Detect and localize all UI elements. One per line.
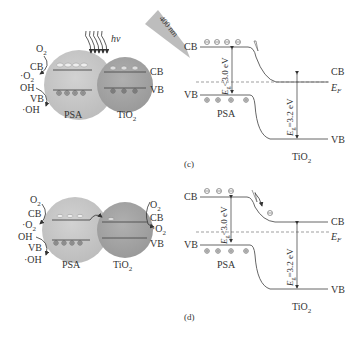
tio2-holes <box>111 89 137 93</box>
svg-text:EF: EF <box>330 82 342 95</box>
svg-text:VB: VB <box>28 242 42 253</box>
label-hydroxyl: ·OH <box>22 104 40 115</box>
svg-text:·OH: ·OH <box>24 254 42 265</box>
svg-text:Eg<3.0 eV: Eg<3.0 eV <box>219 206 230 245</box>
panel-d-schematic: O2 CB ·O2 OH VB ·OH O2 CB ·O2 VB PSA TiO… <box>18 194 167 273</box>
svg-text:VB: VB <box>331 284 345 295</box>
label-tio2-vb: VB <box>150 84 164 95</box>
panel-d-band-diagram: CB CB EF VB VB Eg<3.0 eV Eg=3.2 eV PSA T… <box>184 189 345 323</box>
svg-text:CB: CB <box>28 208 42 219</box>
svg-text:TiO2: TiO2 <box>292 151 312 165</box>
caption-c: (c) <box>184 159 194 169</box>
panel-c-schematic: hν 400 nm O2 CB ·O2 OH VB ·OH CB VB PSA … <box>20 10 190 123</box>
light-arrows-icon <box>85 31 107 53</box>
label-tio2-cb: CB <box>150 66 164 77</box>
label-o2: O2 <box>36 43 47 57</box>
svg-text:TiO2: TiO2 <box>113 259 133 273</box>
light-label: hν <box>111 33 121 44</box>
caption-d: (d) <box>184 312 195 322</box>
panel-c-band-diagram: CB CB EF VB VB Eg<3.0 eV Eg=3.2 eV PSA T… <box>184 40 345 170</box>
label-oh-minus: OH <box>20 82 34 93</box>
svg-text:CB: CB <box>184 191 198 202</box>
svg-text:VB: VB <box>150 238 164 249</box>
svg-text:CB: CB <box>331 66 345 77</box>
svg-text:EF: EF <box>330 231 342 244</box>
svg-text:O2: O2 <box>150 199 161 213</box>
svg-text:CB: CB <box>184 41 198 52</box>
tio2-electrons <box>110 66 138 70</box>
svg-text:TiO2: TiO2 <box>292 301 312 315</box>
svg-text:VB: VB <box>331 134 345 145</box>
svg-text:Eg<3.0 eV: Eg<3.0 eV <box>220 57 231 96</box>
tio2-sphere <box>97 57 153 113</box>
tio2-sphere-d <box>97 202 153 258</box>
svg-text:CB: CB <box>150 212 164 223</box>
svg-text:Eg=3.2 eV: Eg=3.2 eV <box>285 248 296 287</box>
svg-text:O2: O2 <box>30 194 41 208</box>
label-cb: CB <box>30 61 44 72</box>
svg-text:PSA: PSA <box>217 259 236 270</box>
svg-text:·O2: ·O2 <box>152 223 167 237</box>
label-vb: VB <box>30 93 44 104</box>
svg-text:VB: VB <box>184 239 198 250</box>
svg-text:OH: OH <box>18 231 32 242</box>
svg-text:PSA: PSA <box>62 259 81 270</box>
label-psa: PSA <box>64 109 83 120</box>
svg-text:PSA: PSA <box>217 108 236 119</box>
svg-text:Eg=3.2 eV: Eg=3.2 eV <box>285 98 296 137</box>
svg-text:CB: CB <box>331 216 345 227</box>
svg-text:VB: VB <box>184 89 198 100</box>
